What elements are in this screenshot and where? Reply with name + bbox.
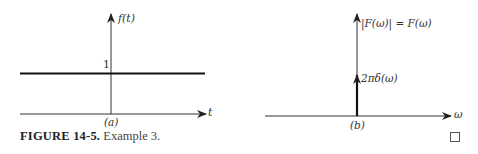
omega-axis-label: ω — [454, 108, 463, 120]
panel-a-sublabel: (a) — [104, 116, 118, 128]
level-label: 1 — [103, 58, 110, 71]
t-axis-label: t — [208, 106, 212, 119]
panel-a — [20, 14, 206, 114]
impulse-label: 2πδ(ω) — [361, 72, 398, 84]
end-of-example-icon — [450, 132, 460, 142]
figure-caption: FIGURE 14-5. Example 3. — [20, 129, 160, 144]
caption-text: Example 3. — [103, 129, 160, 143]
F-axis-label: |F(ω)| = F(ω) — [361, 17, 432, 29]
caption-number: FIGURE 14-5. — [20, 129, 100, 143]
panel-b — [265, 14, 451, 116]
f-axis-label: f(t) — [118, 12, 135, 25]
panel-b-sublabel: (b) — [350, 119, 365, 131]
